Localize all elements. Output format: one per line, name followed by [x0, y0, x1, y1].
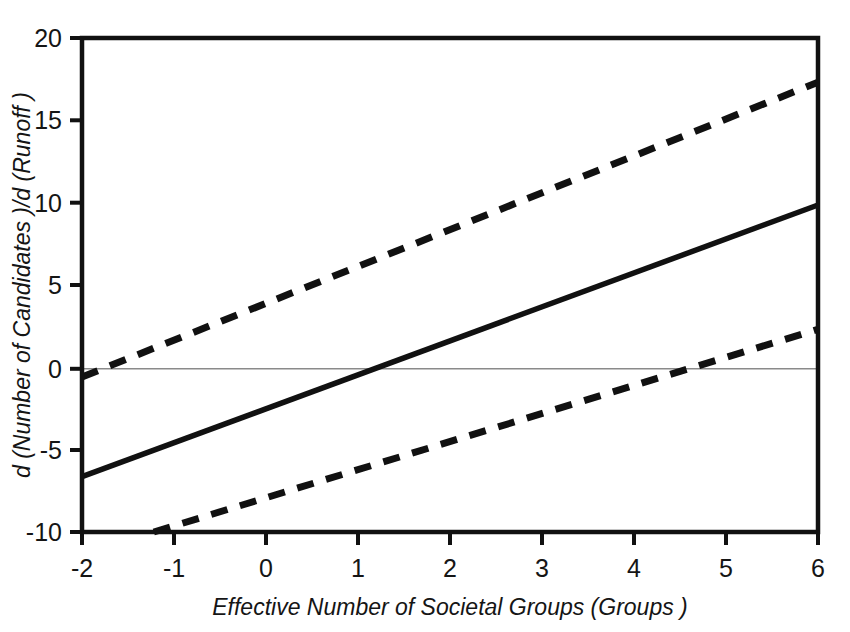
marginal-effects-plot: 20 15 10 5 0 -5 -10 -2 -1 0 1 2 3 4 5 6 … — [0, 0, 850, 632]
y-axis-title: d (Number of Candidates )/d (Runoff ) — [9, 92, 35, 478]
x-tick-label-0: 0 — [259, 554, 273, 582]
y-tick-label-5: 5 — [48, 271, 62, 299]
y-tick-label-minus5: -5 — [40, 436, 62, 464]
chart-figure: 20 15 10 5 0 -5 -10 -2 -1 0 1 2 3 4 5 6 … — [0, 0, 850, 632]
x-axis-title: Effective Number of Societal Groups (Gro… — [212, 594, 688, 620]
x-tick-label-2: 2 — [443, 554, 457, 582]
x-tick-label-minus2: -2 — [71, 554, 93, 582]
plot-area-background — [82, 38, 818, 532]
x-tick-label-6: 6 — [811, 554, 825, 582]
y-tick-label-10: 10 — [34, 189, 62, 217]
x-tick-label-minus1: -1 — [163, 554, 185, 582]
x-tick-label-1: 1 — [351, 554, 365, 582]
y-tick-label-15: 15 — [34, 106, 62, 134]
y-tick-label-minus10: -10 — [26, 518, 62, 546]
x-tick-label-3: 3 — [535, 554, 549, 582]
x-tick-label-4: 4 — [627, 554, 641, 582]
y-tick-label-20: 20 — [34, 24, 62, 52]
y-tick-label-0: 0 — [48, 355, 62, 383]
x-tick-label-5: 5 — [719, 554, 733, 582]
